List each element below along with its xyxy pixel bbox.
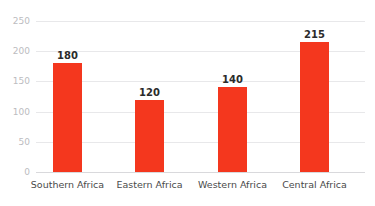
gridline-0-baseline	[36, 172, 365, 173]
x-axis-label-western-africa: Western Africa	[188, 180, 278, 190]
value-label-western-africa: 140	[203, 75, 263, 85]
bar-southern-africa[interactable]	[53, 63, 82, 172]
y-axis-tick-label-250: 250	[0, 17, 30, 26]
x-axis-category-labels: Southern Africa Eastern Africa Western A…	[36, 180, 365, 200]
bar-central-africa[interactable]	[300, 42, 329, 172]
bar-western-africa[interactable]	[218, 87, 247, 172]
x-axis-label-southern-africa: Southern Africa	[23, 180, 113, 190]
gridline-250	[36, 21, 365, 22]
y-axis-tick-label-50: 50	[0, 137, 30, 146]
value-label-southern-africa: 180	[38, 51, 98, 61]
bar-chart: 0 50 100 150 200 250 180 120 140 215 Sou…	[0, 0, 375, 206]
plot-area: 180 120 140 215	[36, 21, 365, 172]
x-axis-label-central-africa: Central Africa	[270, 180, 360, 190]
y-axis-tick-label-150: 150	[0, 77, 30, 86]
y-axis-tick-label-0: 0	[0, 168, 30, 177]
x-axis-label-eastern-africa: Eastern Africa	[105, 180, 195, 190]
bar-eastern-africa[interactable]	[135, 100, 164, 172]
value-label-eastern-africa: 120	[120, 88, 180, 98]
y-axis-tick-label-100: 100	[0, 107, 30, 116]
y-axis-tick-label-200: 200	[0, 47, 30, 56]
y-axis-tick-labels: 0 50 100 150 200 250	[0, 21, 30, 172]
value-label-central-africa: 215	[285, 30, 345, 40]
